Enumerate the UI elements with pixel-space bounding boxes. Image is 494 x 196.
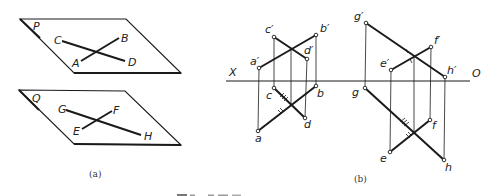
label-d-prime: d′ — [304, 44, 314, 57]
label-f-prime: f′ — [434, 34, 441, 47]
label-g: G — [58, 103, 67, 116]
label-d: d — [304, 118, 312, 131]
projection-diagram: P C B A D Q G F E H (a) X O — [0, 0, 494, 196]
label-b: b — [317, 87, 324, 100]
label-h: H — [144, 130, 152, 143]
label-h: h — [445, 161, 452, 174]
label-b-prime: b′ — [320, 22, 330, 35]
figure-b: X O c′ — [226, 10, 481, 184]
label-f: F — [113, 104, 120, 117]
plane-p — [20, 19, 181, 73]
label-c-prime: c′ — [265, 23, 274, 36]
line-ef-top — [390, 120, 430, 152]
caption-b: (b) — [354, 174, 367, 184]
label-o: O — [472, 67, 481, 80]
line-ef — [82, 111, 112, 129]
label-a-prime: a′ — [250, 55, 260, 68]
label-b: B — [121, 32, 129, 45]
plane-q-bottom-edge — [74, 144, 181, 145]
label-g: g — [352, 86, 359, 99]
label-p: P — [33, 20, 40, 33]
line-g-prime-h-prime — [366, 23, 445, 77]
label-e: e — [380, 152, 387, 165]
label-c: c — [266, 89, 272, 102]
label-c: C — [54, 34, 62, 47]
label-h-prime: h′ — [447, 64, 457, 77]
line-e-prime-f-prime — [391, 47, 431, 70]
label-d: D — [128, 56, 136, 69]
caption-a: (a) — [89, 169, 101, 179]
label-x: X — [228, 66, 237, 79]
label-e: E — [73, 125, 80, 138]
label-f: f — [432, 119, 438, 132]
label-g-prime: g′ — [354, 10, 364, 23]
label-q: Q — [32, 92, 41, 105]
line-cd-top — [274, 88, 305, 118]
label-a: A — [71, 57, 80, 70]
figure-a: P C B A D Q G F E H (a) — [19, 19, 181, 179]
label-e-prime: e′ — [380, 57, 390, 70]
cropped-caption-sliver — [177, 194, 241, 196]
label-a: a — [255, 132, 262, 145]
